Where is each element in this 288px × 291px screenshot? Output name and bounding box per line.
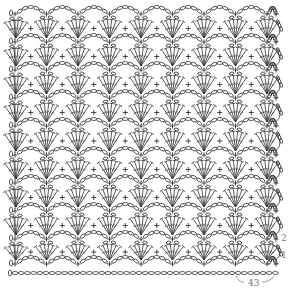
row-label-1: 1 [281, 251, 287, 260]
row-label-2: 2 [281, 234, 287, 243]
foundation-chain-row [8, 270, 278, 282]
fan-row [3, 72, 283, 96]
fan-row [3, 157, 283, 181]
arch-row [9, 6, 278, 17]
arch-row [9, 203, 278, 214]
crochet-chart [0, 0, 288, 291]
fan-row [3, 100, 283, 124]
fan-row [3, 185, 283, 209]
arch-row [9, 175, 278, 186]
arch-row [9, 147, 278, 158]
foundation-chain-count: 43 [248, 279, 259, 288]
fan-row [3, 128, 283, 153]
arch-row [9, 90, 278, 101]
arch-row [9, 34, 278, 45]
fan-row [3, 16, 283, 40]
arch-row [9, 62, 278, 73]
arch-row [9, 118, 278, 129]
arch-row [9, 231, 278, 242]
fan-row [3, 44, 283, 68]
fan-row [3, 213, 283, 237]
